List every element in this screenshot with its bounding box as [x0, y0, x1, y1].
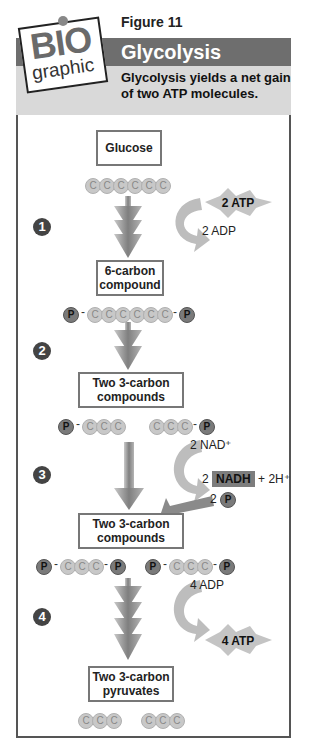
adp-out-label: 2 ADP: [202, 224, 236, 238]
phosphate-atom: P: [63, 307, 79, 323]
three-carbon-chains-a: P-CCC CCC-P: [58, 416, 215, 435]
bond: -: [173, 304, 177, 320]
phosphate-atom: P: [58, 419, 74, 435]
phosphate-atom: P: [179, 307, 195, 323]
nadh-label: NADH: [212, 471, 255, 487]
phosphate-count: 2: [210, 492, 217, 506]
carbon-atom: C: [88, 559, 104, 575]
phosphate-in: 2 P: [210, 492, 236, 508]
h-plus-label: + 2H⁺: [258, 472, 290, 486]
atp-out-label: 4 ATP: [212, 633, 264, 649]
carbon-atom: C: [197, 559, 213, 575]
bond: -: [81, 304, 85, 320]
bond: -: [163, 556, 167, 572]
step-2-badge: 2: [33, 342, 51, 360]
step-1-badge: 1: [33, 218, 51, 236]
phosphate-atom: P: [36, 559, 52, 575]
six-carbon-chain: P-CCCCCC-P: [63, 304, 195, 323]
pyruvate-chains: CCC CCC: [78, 710, 183, 729]
bond: -: [54, 556, 58, 572]
bond: -: [76, 416, 80, 432]
step-4-badge: 4: [33, 608, 51, 626]
step-3-badge: 3: [33, 466, 51, 484]
atp-in-label: 2 ATP: [212, 195, 264, 211]
nadh-count: 2: [202, 472, 209, 486]
glucose-box: Glucose: [96, 130, 162, 166]
phosphate-atom: P: [145, 559, 161, 575]
bond: -: [213, 556, 217, 572]
nad-in-label: 2 NAD⁺: [190, 438, 231, 452]
adp-in-label: 4 ADP: [190, 578, 224, 592]
carbon-atom: C: [110, 419, 126, 435]
phosphate-atom: P: [199, 419, 215, 435]
carbon-atom: C: [157, 307, 173, 323]
carbon-atom: C: [169, 713, 185, 729]
carbon-atom: C: [155, 178, 171, 194]
phosphate-atom: P: [219, 559, 235, 575]
phosphate-atom: P: [110, 559, 126, 575]
bond: -: [104, 556, 108, 572]
pyruvates-box: Two 3-carbon pyruvates: [88, 666, 174, 702]
three-carbon-box-b: Two 3-carbon compounds: [78, 513, 184, 549]
carbon-atom: C: [106, 713, 122, 729]
three-carbon-box-a: Two 3-carbon compounds: [78, 372, 184, 408]
bond: -: [193, 416, 197, 432]
nadh-out: 2 NADH + 2H⁺: [202, 472, 290, 486]
three-carbon-chains-b: P-CCC-P P-CCC-P: [36, 556, 235, 575]
phosphate-atom: P: [220, 492, 236, 508]
six-carbon-box: 6-carbon compound: [96, 260, 164, 296]
glucose-chain: CCCCCC: [85, 175, 169, 194]
carbon-atom: C: [177, 419, 193, 435]
